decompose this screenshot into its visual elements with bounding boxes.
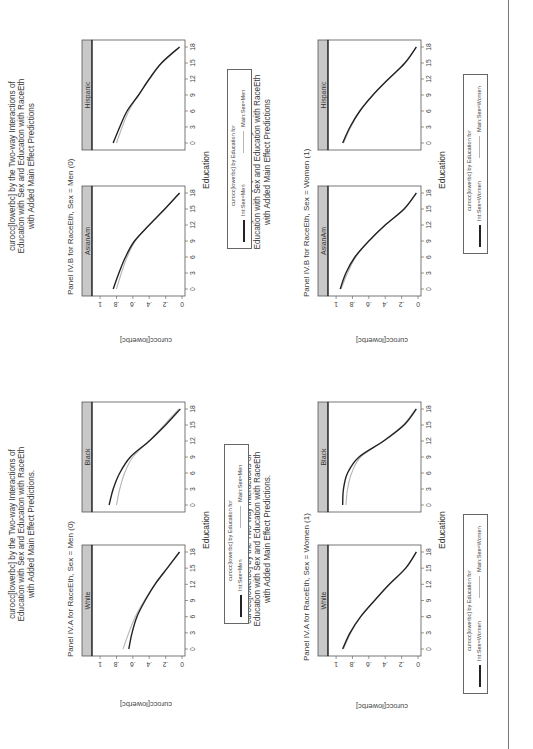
x-tick-label: 6 bbox=[189, 109, 196, 113]
y-tick-label: .6 bbox=[130, 661, 136, 668]
x-tick-label: 9 bbox=[189, 239, 196, 243]
x-tick-label: 0 bbox=[425, 647, 432, 651]
panel-strip-label: Black bbox=[84, 448, 91, 466]
x-tick-label: 18 bbox=[189, 548, 196, 556]
x-tick-label: 0 bbox=[425, 141, 432, 145]
x-tick-label: 6 bbox=[425, 615, 432, 619]
x-tick-label: 0 bbox=[189, 141, 196, 145]
panel-strip-label: Hispanic bbox=[84, 81, 92, 108]
x-tick-label: 3 bbox=[189, 631, 196, 635]
x-tick-label: 15 bbox=[425, 564, 432, 572]
x-tick-label: 9 bbox=[425, 455, 432, 459]
rotated-page: curocc[lowerbc] by the Two-way Interacti… bbox=[0, 0, 533, 749]
panel-strip-label: AsianAm bbox=[84, 227, 91, 255]
x-tick-label: 18 bbox=[425, 548, 432, 556]
x-tick-label: 3 bbox=[425, 487, 432, 491]
panel-hispanic: Hispanic0369121518 bbox=[82, 40, 196, 150]
y-tick-label: .8 bbox=[113, 661, 119, 668]
x-tick-label: 15 bbox=[425, 205, 432, 213]
x-tick-label: 12 bbox=[189, 75, 196, 83]
x-tick-label: 18 bbox=[425, 189, 432, 197]
y-tick-label: 0 bbox=[180, 301, 184, 308]
x-tick-label: 3 bbox=[425, 125, 432, 129]
y-tick-label: .2 bbox=[163, 301, 169, 308]
x-tick-label: 0 bbox=[189, 647, 196, 651]
chart-panels: White03691215180.2.4.6.81Black0369121518… bbox=[0, 0, 533, 749]
x-tick-label: 6 bbox=[189, 615, 196, 619]
y-tick-label: .4 bbox=[382, 301, 388, 308]
y-tick-label: .4 bbox=[146, 301, 152, 308]
x-tick-label: 6 bbox=[425, 109, 432, 113]
y-tick-label: 1 bbox=[334, 661, 338, 668]
x-tick-label: 12 bbox=[425, 437, 432, 445]
x-tick-label: 15 bbox=[425, 59, 432, 67]
x-tick-label: 0 bbox=[189, 287, 196, 291]
x-tick-label: 3 bbox=[189, 487, 196, 491]
y-tick-label: .2 bbox=[163, 661, 169, 668]
x-tick-label: 15 bbox=[189, 205, 196, 213]
x-tick-label: 0 bbox=[189, 503, 196, 507]
y-tick-label: .8 bbox=[349, 301, 355, 308]
x-tick-label: 12 bbox=[189, 221, 196, 229]
x-tick-label: 3 bbox=[425, 271, 432, 275]
x-tick-label: 6 bbox=[425, 471, 432, 475]
x-tick-label: 12 bbox=[425, 75, 432, 83]
x-tick-label: 0 bbox=[425, 287, 432, 291]
y-tick-label: .8 bbox=[349, 661, 355, 668]
y-tick-label: 0 bbox=[416, 661, 420, 668]
x-tick-label: 9 bbox=[425, 93, 432, 97]
y-tick-label: 0 bbox=[180, 661, 184, 668]
x-tick-label: 9 bbox=[189, 598, 196, 602]
panel-strip-label: Black bbox=[320, 448, 327, 466]
y-tick-label: .2 bbox=[399, 301, 405, 308]
x-tick-label: 18 bbox=[189, 405, 196, 413]
panel-strip-label: AsianAm bbox=[320, 227, 327, 255]
x-tick-label: 18 bbox=[425, 405, 432, 413]
panel-black: Black0369121518 bbox=[318, 402, 432, 512]
panel-white: White03691215180.2.4.6.81 bbox=[82, 545, 196, 668]
x-tick-label: 15 bbox=[189, 59, 196, 67]
x-tick-label: 18 bbox=[189, 189, 196, 197]
y-tick-label: 1 bbox=[334, 301, 338, 308]
x-tick-label: 0 bbox=[425, 503, 432, 507]
panel-asianam: AsianAm03691215180.2.4.6.81 bbox=[318, 186, 432, 308]
x-tick-label: 12 bbox=[425, 580, 432, 588]
y-tick-label: .6 bbox=[366, 661, 372, 668]
panel-asianam: AsianAm03691215180.2.4.6.81 bbox=[82, 186, 196, 308]
y-tick-label: .2 bbox=[399, 661, 405, 668]
x-tick-label: 6 bbox=[425, 255, 432, 259]
x-tick-label: 18 bbox=[425, 43, 432, 51]
x-tick-label: 9 bbox=[425, 598, 432, 602]
x-tick-label: 12 bbox=[189, 437, 196, 445]
panel-hispanic: Hispanic0369121518 bbox=[318, 40, 432, 150]
y-tick-label: .4 bbox=[146, 661, 152, 668]
y-tick-label: .6 bbox=[130, 301, 136, 308]
x-tick-label: 12 bbox=[189, 580, 196, 588]
y-tick-label: 1 bbox=[98, 661, 102, 668]
y-tick-label: .4 bbox=[382, 661, 388, 668]
x-tick-label: 15 bbox=[189, 421, 196, 429]
y-tick-label: 0 bbox=[416, 301, 420, 308]
x-tick-label: 15 bbox=[425, 421, 432, 429]
y-tick-label: 1 bbox=[98, 301, 102, 308]
x-tick-label: 6 bbox=[189, 471, 196, 475]
y-tick-label: .8 bbox=[113, 301, 119, 308]
x-tick-label: 6 bbox=[189, 255, 196, 259]
y-tick-label: .6 bbox=[366, 301, 372, 308]
x-tick-label: 15 bbox=[189, 564, 196, 572]
x-tick-label: 9 bbox=[189, 455, 196, 459]
x-tick-label: 3 bbox=[425, 631, 432, 635]
x-tick-label: 18 bbox=[189, 43, 196, 51]
panel-strip-label: Hispanic bbox=[320, 81, 328, 108]
x-tick-label: 9 bbox=[425, 239, 432, 243]
x-tick-label: 9 bbox=[189, 93, 196, 97]
x-tick-label: 12 bbox=[425, 221, 432, 229]
panel-strip-label: White bbox=[84, 591, 91, 609]
panel-strip-label: White bbox=[320, 591, 327, 609]
x-tick-label: 3 bbox=[189, 271, 196, 275]
panel-black: Black0369121518 bbox=[82, 402, 196, 512]
panel-white: White03691215180.2.4.6.81 bbox=[318, 545, 432, 668]
x-tick-label: 3 bbox=[189, 125, 196, 129]
